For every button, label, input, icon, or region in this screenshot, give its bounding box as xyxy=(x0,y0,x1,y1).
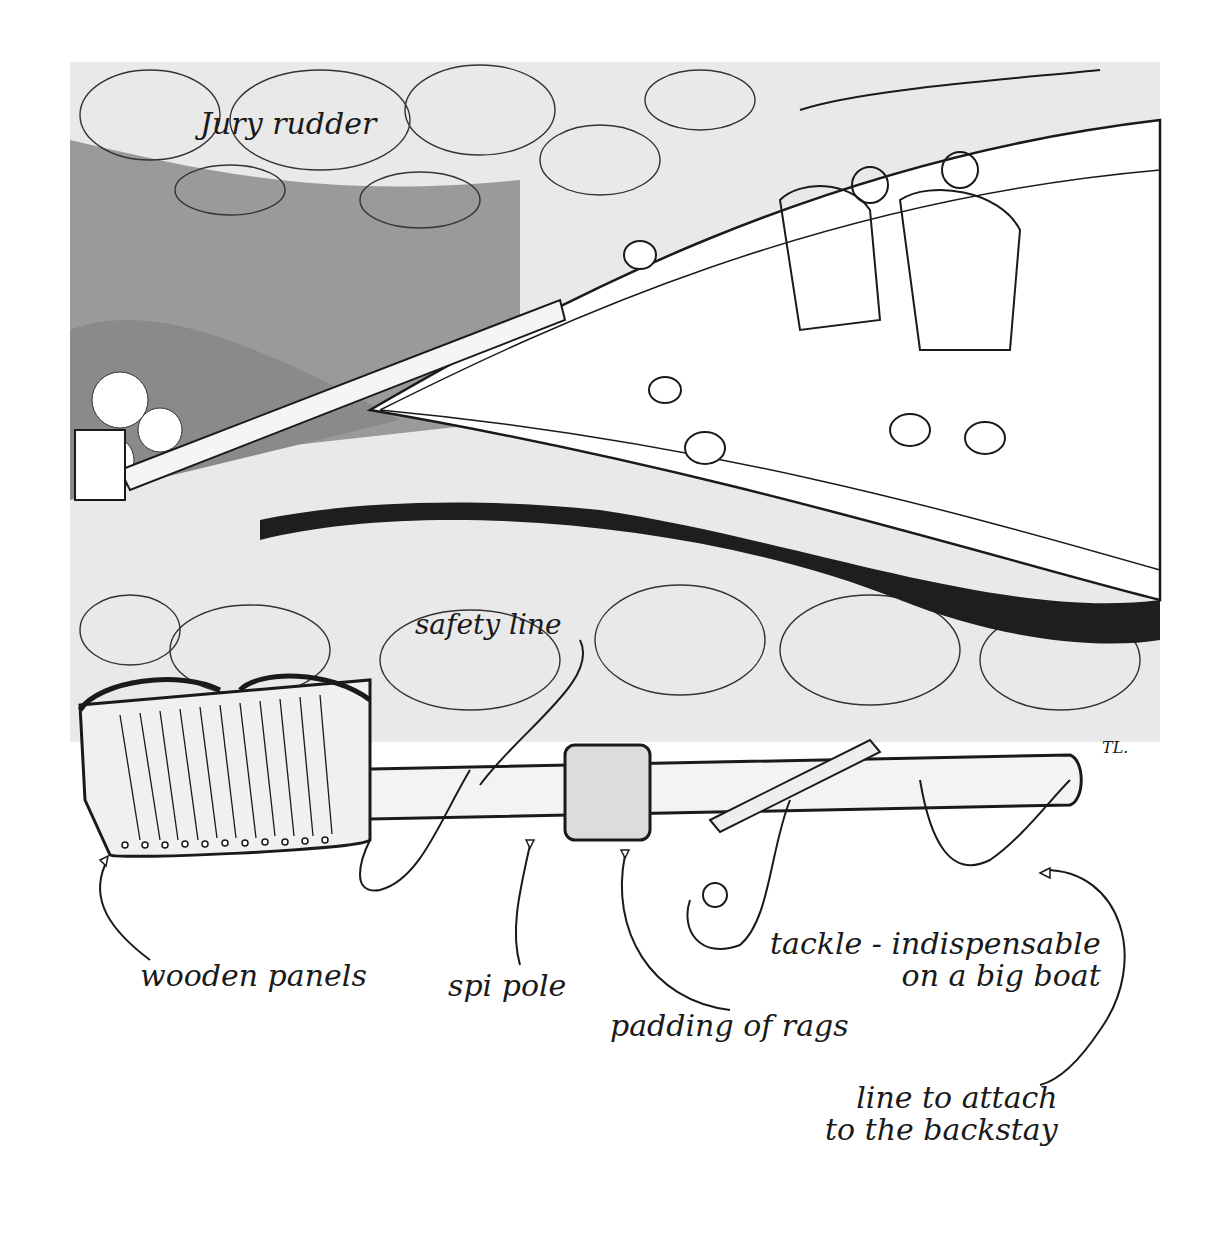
label-backstay-line1: line to attach xyxy=(825,1082,1058,1114)
label-jury-rudder: Jury rudder xyxy=(200,108,376,140)
label-backstay-line2: to the backstay xyxy=(825,1114,1058,1146)
artist-signature: TL. xyxy=(1102,740,1128,757)
label-tackle: tackle - indispensable on a big boat xyxy=(770,928,1101,991)
label-safety-line: safety line xyxy=(415,610,561,639)
label-tackle-line2: on a big boat xyxy=(770,960,1101,992)
label-wooden-panels: wooden panels xyxy=(140,960,367,992)
label-backstay-line: line to attach to the backstay xyxy=(825,1082,1058,1145)
label-spi-pole: spi pole xyxy=(448,970,566,1002)
label-padding-of-rags: padding of rags xyxy=(610,1010,849,1042)
label-tackle-line1: tackle - indispensable xyxy=(770,928,1101,960)
illustration-canvas xyxy=(0,0,1221,1245)
